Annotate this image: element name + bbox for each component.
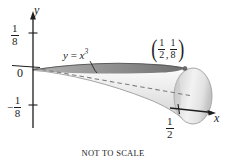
curve-equation-exponent: 3 <box>85 47 89 56</box>
y-axis-label: y <box>34 4 39 16</box>
fraction-numerator: 1 <box>158 38 165 48</box>
figure-canvas: y x 0 1 8 − 1 8 1 2 y = x3 ( 1 <box>0 0 226 167</box>
fraction-numerator: 1 <box>11 23 19 34</box>
fraction-one-eighth: 1 8 <box>11 23 19 47</box>
y-tick-label-one-eighth: 1 8 <box>11 23 19 47</box>
x-tick-label-one-half: 1 2 <box>166 116 174 140</box>
generating-curve-band <box>33 63 185 73</box>
fraction-one-half: 1 2 <box>166 116 174 140</box>
y-tick-label-negative-one-eighth: − 1 8 <box>7 95 21 119</box>
close-paren: ) <box>178 39 184 59</box>
x-axis-label: x <box>214 112 219 124</box>
fraction-one-eighth: 1 8 <box>170 38 177 60</box>
fraction-numerator: 1 <box>14 95 22 106</box>
fraction-denominator: 2 <box>158 50 165 60</box>
fraction-denominator: 8 <box>170 50 177 60</box>
fraction-numerator: 1 <box>166 116 174 127</box>
fraction-denominator: 8 <box>11 36 19 47</box>
curve-equation-label: y = x3 <box>63 48 88 61</box>
minus-sign: − <box>7 102 13 113</box>
fraction-denominator: 2 <box>166 129 174 140</box>
origin-label: 0 <box>17 67 23 79</box>
fraction-one-half: 1 2 <box>158 38 165 60</box>
fraction-numerator: 1 <box>170 38 177 48</box>
fraction-denominator: 8 <box>14 108 22 119</box>
end-disk <box>174 68 212 124</box>
open-paren: ( <box>151 39 157 59</box>
fraction-one-eighth: 1 8 <box>14 95 22 119</box>
solid-of-revolution-drawing <box>0 0 226 167</box>
point-marker <box>183 66 187 70</box>
figure-caption: NOT TO SCALE <box>0 148 226 158</box>
point-coordinates-label: ( 1 2 , 1 8 ) <box>150 38 185 60</box>
